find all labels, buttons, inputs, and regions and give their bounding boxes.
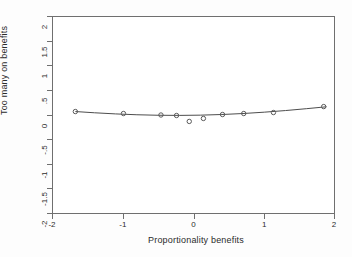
data-point — [121, 111, 125, 115]
y-tick-label: 0 — [41, 115, 49, 137]
y-tick-label: 1.5 — [41, 41, 49, 63]
data-point — [201, 116, 205, 120]
x-tick-mark — [264, 214, 265, 219]
y-tick-label: 1 — [41, 65, 49, 87]
x-tick-label: 2 — [321, 221, 347, 229]
quadratic-fit-line — [75, 107, 326, 116]
y-tick-label: .5 — [41, 90, 49, 112]
y-axis-title: Too many on benefits — [0, 26, 9, 115]
y-tick-label: -1.5 — [41, 188, 49, 210]
y-tick-label: -1 — [41, 164, 49, 186]
x-tick-label: -1 — [110, 221, 136, 229]
fit-line-group — [75, 107, 326, 116]
x-axis-title: Proportionality benefits — [0, 236, 352, 245]
data-point — [187, 119, 191, 123]
x-tick-mark — [52, 214, 53, 219]
x-tick-mark — [123, 214, 124, 219]
y-tick-label: 2 — [41, 16, 49, 38]
x-tick-mark — [194, 214, 195, 219]
chart-figure: 2 1.5 1 .5 0 -.5 -1 -1.5 -2 -2 -1 0 1 2 … — [0, 0, 352, 257]
x-tick-label: 1 — [251, 221, 277, 229]
plot-data-layer — [52, 16, 335, 214]
x-tick-label: -2 — [39, 221, 65, 229]
x-tick-mark — [334, 214, 335, 219]
y-tick-label: -.5 — [41, 139, 49, 161]
x-tick-label: 0 — [181, 221, 207, 229]
